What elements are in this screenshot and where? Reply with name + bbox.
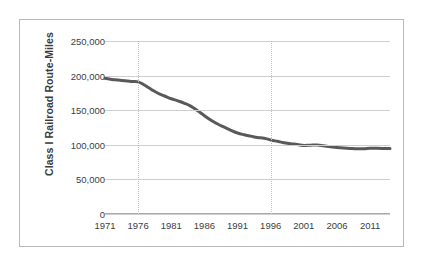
horizontal-gridline — [105, 76, 390, 77]
plot-area — [105, 41, 390, 214]
x-axis-tick-label: 1996 — [260, 220, 281, 231]
horizontal-gridline — [105, 214, 390, 215]
y-axis-tick-label: 0 — [32, 209, 105, 220]
y-axis-tick-label: 100,000 — [32, 139, 105, 150]
chart-plot-container: Class I Railroad Route-Miles 050,000100,… — [20, 20, 403, 246]
x-axis-tick-label: 1981 — [161, 220, 182, 231]
x-axis-tick-label: 2001 — [293, 220, 314, 231]
vertical-gridline — [138, 41, 139, 214]
x-axis-tick-labels: 197119761981198619911996200120062011 — [105, 220, 390, 236]
x-axis-tick-label: 1971 — [94, 220, 115, 231]
horizontal-gridline — [105, 110, 390, 111]
x-axis-tick-label: 2011 — [360, 220, 380, 231]
line-series-svg — [105, 41, 390, 214]
horizontal-gridline — [105, 145, 390, 146]
y-axis-tick-label: 250,000 — [32, 36, 105, 47]
y-axis-tick-label: 50,000 — [32, 174, 105, 185]
data-line — [105, 78, 390, 149]
x-axis-tick-label: 1991 — [227, 220, 248, 231]
x-axis-tick-label: 1986 — [194, 220, 215, 231]
horizontal-gridline — [105, 41, 390, 42]
y-axis-tick-label: 200,000 — [32, 70, 105, 81]
y-axis-tick-labels: 050,000100,000150,000200,000250,000 — [32, 20, 105, 246]
y-axis-tick-label: 150,000 — [32, 105, 105, 116]
x-axis-tick-label: 1976 — [128, 220, 149, 231]
x-axis-tick-label: 2006 — [326, 220, 347, 231]
chart-figure: Class I Railroad Route-Miles 050,000100,… — [19, 19, 404, 247]
horizontal-gridline — [105, 179, 390, 180]
vertical-gridline — [271, 41, 272, 214]
